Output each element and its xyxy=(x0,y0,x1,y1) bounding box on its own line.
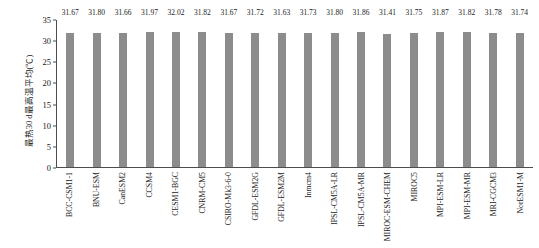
bar-value-label: 31.67 xyxy=(220,8,237,17)
x-axis-label: BCC-CSM1-1 xyxy=(65,172,74,217)
x-axis-label: IPSL-CM5A-MR xyxy=(356,172,365,227)
bar-value-label: 31.97 xyxy=(141,8,158,17)
x-label-slot: GFDL-ESM2G xyxy=(242,170,269,246)
bar xyxy=(66,33,74,167)
bar-value-label: 31.80 xyxy=(326,8,343,17)
x-label-slot: CanESM2 xyxy=(109,170,136,246)
bar xyxy=(93,33,101,168)
x-label-slot: GFDL-ESM2M xyxy=(268,170,295,246)
bar-value-label: 31.82 xyxy=(194,8,211,17)
x-axis-label: MPI-ESM-LR xyxy=(436,172,445,217)
bar-slot: 32.02 xyxy=(163,20,189,167)
y-tick-label-20: 20 xyxy=(31,78,51,88)
bar-value-label: 31.86 xyxy=(353,8,370,17)
bar xyxy=(278,33,286,167)
x-axis-label: CSIRO-Mk3-6-0 xyxy=(224,172,233,225)
x-label-slot: NorESM1-M xyxy=(507,170,534,246)
x-axis-label: BNU-ESM xyxy=(91,172,100,207)
y-tick-label-30: 30 xyxy=(31,36,51,46)
x-label-slot: CCSM4 xyxy=(136,170,163,246)
bar-slot: 31.63 xyxy=(269,20,295,167)
bar xyxy=(436,32,444,167)
y-tick-label-5: 5 xyxy=(31,142,51,152)
bar-slot: 31.73 xyxy=(295,20,321,167)
y-tick-mark-35 xyxy=(53,20,56,21)
bar-slot: 31.41 xyxy=(374,20,400,167)
bar-value-label: 31.80 xyxy=(88,8,105,17)
x-label-slot: BCC-CSM1-1 xyxy=(56,170,83,246)
y-tick-mark-20 xyxy=(53,83,56,84)
y-tick-mark-30 xyxy=(53,41,56,42)
x-label-slot: MPI-ESM-MR xyxy=(454,170,481,246)
bar xyxy=(463,32,471,167)
x-axis-category-labels: BCC-CSM1-1BNU-ESMCanESM2CCSM4CESM1-BGCCN… xyxy=(56,170,533,246)
x-label-slot: Inmcm4 xyxy=(295,170,322,246)
x-label-slot: BNU-ESM xyxy=(83,170,110,246)
y-tick-label-15: 15 xyxy=(31,100,51,110)
bar-value-label: 31.82 xyxy=(458,8,475,17)
y-tick-label-0: 0 xyxy=(31,163,51,173)
x-axis-label: CNRM-CM5 xyxy=(197,172,206,214)
x-axis-label: CCSM4 xyxy=(144,172,153,198)
x-label-slot: CNRM-CM5 xyxy=(189,170,216,246)
bar-slot: 31.97 xyxy=(136,20,162,167)
bar-slot: 31.72 xyxy=(242,20,268,167)
bar-value-label: 31.87 xyxy=(432,8,449,17)
x-label-slot: CSIRO-Mk3-6-0 xyxy=(215,170,242,246)
bar xyxy=(225,33,233,167)
x-label-slot: MRI-CGCM3 xyxy=(480,170,507,246)
x-label-slot: IPSL-CM5A-LR xyxy=(321,170,348,246)
y-tick-label-10: 10 xyxy=(31,121,51,131)
y-tick-mark-10 xyxy=(53,125,56,126)
x-axis-label: GFDL-ESM2G xyxy=(250,172,259,221)
bar xyxy=(331,33,339,168)
bar xyxy=(516,33,524,167)
x-axis-label: NorESM1-M xyxy=(515,172,524,214)
bar-chart: 最热30 d最高温平均(℃) 05101520253035 31.6731.80… xyxy=(0,0,539,248)
x-label-slot: MPI-ESM-LR xyxy=(427,170,454,246)
x-axis-label: CanESM2 xyxy=(118,172,127,205)
bar-slot: 31.67 xyxy=(57,20,83,167)
y-axis-tick-labels: 05101520253035 xyxy=(31,20,51,168)
bar-series: 31.6731.8031.6631.9732.0231.8231.6731.72… xyxy=(57,20,533,167)
y-tick-mark-5 xyxy=(53,146,56,147)
x-axis-label: MIROC5 xyxy=(409,172,418,201)
x-axis-label: GFDL-ESM2M xyxy=(277,172,286,222)
x-label-slot: MIROC5 xyxy=(401,170,428,246)
x-label-slot: IPSL-CM5A-MR xyxy=(348,170,375,246)
bar-slot: 31.75 xyxy=(401,20,427,167)
x-label-slot: MIROC-ESM-CHEM xyxy=(374,170,401,246)
bar xyxy=(383,34,391,167)
bar xyxy=(198,32,206,167)
x-axis-label: MPI-ESM-MR xyxy=(462,172,471,219)
bar xyxy=(172,32,180,167)
x-axis-label: CESM1-BGC xyxy=(171,172,180,216)
y-tick-label-35: 35 xyxy=(31,15,51,25)
bar-slot: 31.82 xyxy=(454,20,480,167)
bar xyxy=(146,32,154,167)
bar xyxy=(357,32,365,167)
y-tick-mark-0 xyxy=(53,168,56,169)
bar-slot: 31.80 xyxy=(83,20,109,167)
bar xyxy=(489,33,497,167)
bar-slot: 31.86 xyxy=(348,20,374,167)
bar-value-label: 31.74 xyxy=(511,8,528,17)
bar-value-label: 31.78 xyxy=(485,8,502,17)
bar xyxy=(410,33,418,167)
x-axis-label: MRI-CGCM3 xyxy=(489,172,498,216)
bar-slot: 31.74 xyxy=(506,20,532,167)
bar-value-label: 31.72 xyxy=(247,8,264,17)
bar-value-label: 31.73 xyxy=(300,8,317,17)
bar-value-label: 31.66 xyxy=(115,8,132,17)
bar-slot: 31.87 xyxy=(427,20,453,167)
bar-slot: 31.67 xyxy=(216,20,242,167)
bar-value-label: 31.63 xyxy=(273,8,290,17)
bar-slot: 31.82 xyxy=(189,20,215,167)
y-tick-label-25: 25 xyxy=(31,57,51,67)
bar-value-label: 31.41 xyxy=(379,8,396,17)
bar-slot: 31.78 xyxy=(480,20,506,167)
bar-slot: 31.66 xyxy=(110,20,136,167)
plot-area: 31.6731.8031.6631.9732.0231.8231.6731.72… xyxy=(56,20,533,168)
bar-value-label: 32.02 xyxy=(168,8,185,17)
x-label-slot: CESM1-BGC xyxy=(162,170,189,246)
